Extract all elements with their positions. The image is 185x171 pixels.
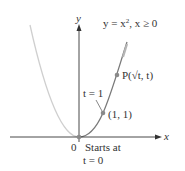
parametric-diagram: y x y = x2, x ≥ 0 P(√t, t) (1, 1) t = 1 … <box>0 0 185 171</box>
origin-label: 0 <box>71 141 77 153</box>
starts-at-label: Starts at <box>85 141 121 153</box>
curve-label: y = x2, x ≥ 0 <box>103 17 158 29</box>
point-one-one <box>101 111 106 116</box>
point-p-label: P(√t, t) <box>122 69 153 82</box>
y-axis-arrow-icon <box>77 24 82 31</box>
t-equals-1-label: t = 1 <box>83 87 103 99</box>
y-axis-label: y <box>75 12 81 24</box>
curve-label-rhs: , x ≥ 0 <box>129 17 158 29</box>
t-equals-0-label: t = 0 <box>83 154 104 166</box>
point-p <box>115 73 120 78</box>
curve-label-lhs: y = x <box>103 17 126 29</box>
x-axis-label: x <box>163 130 169 142</box>
point-one-one-label: (1, 1) <box>108 108 132 121</box>
point-origin <box>77 135 82 140</box>
direction-arrow <box>123 44 127 57</box>
parabola-left-branch <box>30 25 79 137</box>
t1-leader-line <box>96 100 102 111</box>
x-axis-arrow-icon <box>155 135 162 140</box>
